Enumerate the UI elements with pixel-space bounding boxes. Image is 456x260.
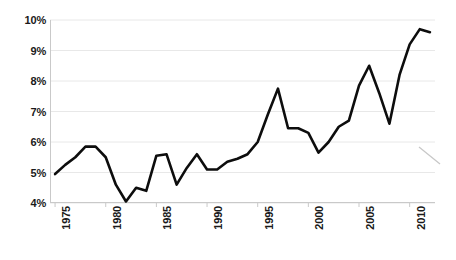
line-chart: 4%5%6%7%8%9%10% 197519801985199019952000… bbox=[0, 0, 456, 260]
stray-mark-icon bbox=[0, 0, 456, 260]
stray-mark bbox=[419, 147, 440, 164]
